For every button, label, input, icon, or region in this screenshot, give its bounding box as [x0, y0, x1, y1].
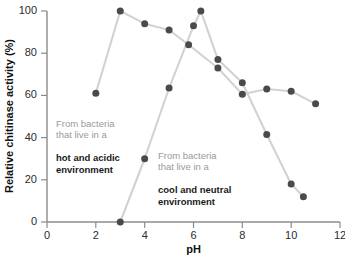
x-axis-title: pH: [186, 243, 201, 255]
x-tick-label-12: 12: [334, 229, 345, 241]
annotation-hot-strong: hot and acidic environment: [56, 152, 156, 175]
annotation-cool-lead: From bacteria that live in a: [158, 150, 268, 173]
data-point: [312, 100, 319, 107]
annotation-hot-lead: From bacteria that live in a: [56, 118, 156, 141]
chart-figure: 100 80 60 40 20 0 0 2 4 6 8 10 12 pH Rel…: [0, 0, 345, 258]
x-tick-label-0: 0: [44, 229, 50, 241]
plot-area: 100 80 60 40 20 0 0 2 4 6 8 10 12 pH Rel…: [0, 0, 345, 258]
data-point: [197, 8, 204, 15]
x-tick-label-4: 4: [142, 229, 148, 241]
data-point: [263, 131, 270, 138]
data-point: [117, 219, 124, 226]
y-tick-label-100: 100: [19, 4, 37, 16]
annotation-cool-neutral: From bacteria that live in a cool and ne…: [158, 138, 268, 219]
data-point: [300, 193, 307, 200]
data-point: [185, 41, 192, 48]
y-tick-label-80: 80: [25, 46, 37, 58]
x-tick-label-8: 8: [239, 229, 245, 241]
x-tick-label-6: 6: [190, 229, 196, 241]
data-point: [263, 86, 270, 93]
data-point: [214, 56, 221, 63]
y-tick-label-60: 60: [25, 88, 37, 100]
data-point: [288, 88, 295, 95]
data-point: [166, 26, 173, 33]
x-tick-label-2: 2: [93, 229, 99, 241]
data-point: [117, 8, 124, 15]
annotation-cool-strong: cool and neutral environment: [158, 184, 268, 207]
y-tick-label-20: 20: [25, 173, 37, 185]
y-axis-title: Relative chitinase activity (%): [3, 39, 15, 193]
x-axis-ticks: 0 2 4 6 8 10 12: [44, 222, 345, 241]
annotation-hot-acidic: From bacteria that live in a hot and aci…: [56, 106, 156, 187]
data-point: [190, 22, 197, 29]
y-tick-label-0: 0: [31, 215, 37, 227]
data-point: [92, 90, 99, 97]
data-point: [239, 91, 246, 98]
data-point: [288, 181, 295, 188]
y-tick-label-40: 40: [25, 131, 37, 143]
data-point: [239, 79, 246, 86]
y-axis-ticks: 100 80 60 40 20 0: [19, 4, 47, 227]
x-tick-label-10: 10: [285, 229, 297, 241]
data-point: [141, 20, 148, 27]
data-point: [214, 64, 221, 71]
data-point: [166, 85, 173, 92]
